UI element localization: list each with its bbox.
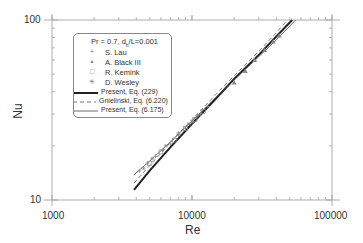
y-tick-10: 10	[30, 194, 41, 205]
x-tick-100000: 100000	[314, 210, 347, 221]
x-tick-1000: 1000	[42, 210, 64, 221]
legend-item-present-6175: Present, Eq. (6.175)	[101, 106, 164, 113]
legend-item-gnielinski: Gnielinski, Eq. (6.220)	[99, 97, 168, 104]
plot-area	[0, 0, 363, 243]
legend-item-present-229: Present, Eq. (229)	[101, 88, 158, 95]
y-tick-100: 100	[24, 14, 41, 25]
x-tick-10000: 10000	[178, 210, 206, 221]
legend: Pr = 0.7, dh/L=0.001 + S. Lau ▲ A. Black…	[73, 33, 172, 118]
x-axis-label: Re	[185, 223, 200, 237]
y-axis-label: Nu	[11, 103, 25, 118]
